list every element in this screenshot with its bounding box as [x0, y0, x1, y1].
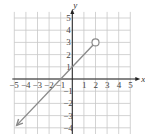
y-tick-label: −1	[63, 86, 73, 96]
x-axis-label: x	[140, 74, 145, 84]
x-tick-label: 3	[105, 80, 110, 90]
y-tick-label: −2	[63, 98, 73, 108]
y-tick-label: 5	[66, 13, 71, 23]
graph: xy −5−4−3−2−11234554321−1−2−3−4	[0, 0, 145, 134]
y-tick-label: −3	[63, 111, 73, 121]
x-axis-arrow-icon	[135, 77, 140, 81]
x-tick-label: 2	[94, 80, 99, 90]
x-tick-label: 1	[82, 80, 87, 90]
open-circle-endpoint	[92, 39, 99, 46]
y-tick-label: 3	[66, 37, 71, 47]
x-tick-label: −4	[21, 80, 31, 90]
x-tick-label: −3	[33, 80, 43, 90]
y-tick-label: 2	[66, 50, 71, 60]
y-tick-label: −4	[63, 123, 73, 133]
y-tick-label: 4	[66, 25, 71, 35]
y-axis-label: y	[72, 0, 77, 10]
tick-labels: −5−4−3−2−11234554321−1−2−3−4	[9, 13, 133, 133]
x-tick-label: −5	[9, 80, 19, 90]
x-tick-label: 4	[117, 80, 122, 90]
x-tick-label: 5	[128, 80, 133, 90]
